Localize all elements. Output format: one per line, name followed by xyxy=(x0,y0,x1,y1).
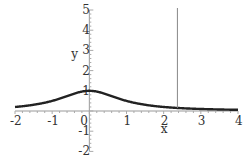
x-axis-label: x xyxy=(161,122,168,136)
y-tick-label: -1 xyxy=(78,124,90,138)
y-axis-label: y xyxy=(70,47,78,61)
axes xyxy=(15,10,238,151)
chart: -2-101234-2-112345 x y xyxy=(0,0,244,165)
y-tick-label: 3 xyxy=(82,43,90,57)
y-tick-label: 2 xyxy=(82,64,90,78)
ticks xyxy=(15,10,238,151)
tick-labels: -2-101234-2-112345 xyxy=(10,3,243,158)
x-tick-label: -2 xyxy=(10,114,22,128)
x-tick-label: 4 xyxy=(235,114,243,128)
x-tick-label: -1 xyxy=(47,114,59,128)
x-tick-label: 1 xyxy=(124,114,132,128)
y-tick-label: 4 xyxy=(82,23,90,37)
data-curve xyxy=(15,91,238,110)
y-tick-label: -2 xyxy=(78,144,90,158)
y-tick-label: 5 xyxy=(82,3,90,17)
x-tick-label: 3 xyxy=(198,114,206,128)
